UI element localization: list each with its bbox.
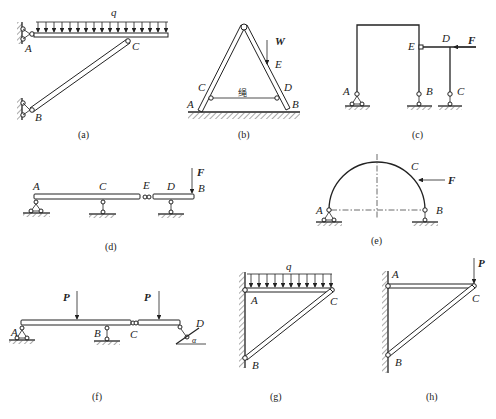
label-C: C — [198, 81, 206, 93]
caption-d: (d) — [105, 241, 117, 253]
label-F: F — [196, 166, 205, 178]
caption-c: (c) — [412, 129, 423, 141]
label-P1: P — [63, 291, 70, 303]
pin-B — [386, 353, 391, 358]
caption-f: (f) — [92, 391, 102, 403]
label-C: C — [330, 295, 338, 307]
label-D: D — [441, 32, 450, 44]
label-q: q — [286, 260, 292, 272]
label-A: A — [391, 268, 399, 280]
label-D: D — [283, 81, 292, 93]
label-B: B — [426, 85, 433, 97]
caption-e: (e) — [371, 235, 382, 247]
label-B: B — [198, 182, 205, 194]
label-A: A — [315, 204, 323, 216]
pin-C — [126, 39, 131, 44]
label-A: A — [250, 294, 258, 306]
label-F: F — [467, 34, 476, 46]
label-rope: 绳 — [238, 87, 247, 98]
label-W: W — [275, 35, 286, 47]
label-C: C — [130, 328, 138, 340]
label-P: P — [478, 257, 485, 269]
hinge-top — [241, 24, 247, 30]
panel-f: P P A B C D α (f) — [9, 291, 206, 403]
label-E: E — [274, 58, 282, 70]
label-E: E — [142, 179, 150, 191]
label-C: C — [132, 40, 140, 52]
bar-AC — [198, 25, 245, 112]
strut-BC — [30, 39, 130, 112]
caption-g: (g) — [270, 391, 282, 403]
label-C: C — [99, 180, 107, 192]
bar-AC — [388, 284, 474, 288]
label-P2: P — [144, 291, 151, 303]
pin-B — [30, 108, 35, 113]
panel-h: P A C B (h) — [382, 257, 485, 403]
panel-a: q A C B (a) — [17, 6, 168, 141]
panel-c: F D E A B C (c) — [342, 25, 476, 141]
label-A: A — [186, 98, 194, 110]
caption-a: (a) — [78, 129, 89, 141]
label-B: B — [395, 356, 402, 368]
beam-EB — [153, 194, 194, 199]
label-A: A — [342, 85, 350, 97]
label-q: q — [111, 6, 117, 18]
beam-AC — [245, 288, 332, 292]
beam-AC — [34, 33, 168, 37]
label-A: A — [32, 180, 40, 192]
label-A: A — [24, 42, 32, 54]
bar-BC — [387, 285, 475, 356]
label-D: D — [195, 317, 204, 329]
label-C: C — [457, 85, 465, 97]
frame-AEB — [357, 25, 419, 92]
panel-e: F C A B (e) — [315, 154, 456, 247]
panel-b: 绳 W E C D A B (b) — [186, 24, 300, 141]
label-D: D — [166, 180, 175, 192]
panel-g: q A C B (g) — [239, 260, 338, 403]
pin-A — [243, 288, 248, 293]
label-E: E — [407, 40, 415, 52]
beam-AC — [21, 320, 131, 325]
label-F: F — [447, 174, 456, 186]
label-B: B — [436, 204, 443, 216]
label-B: B — [35, 111, 42, 123]
panel-d: F B A C E D (d) — [23, 166, 205, 253]
beam-CD — [138, 320, 180, 325]
caption-b: (b) — [238, 129, 250, 141]
label-A: A — [10, 326, 18, 338]
caption-h: (h) — [426, 391, 438, 403]
pin-B — [243, 356, 248, 361]
beam-AE — [34, 194, 140, 199]
label-B: B — [292, 98, 299, 110]
label-B: B — [94, 327, 101, 339]
label-B: B — [252, 359, 259, 371]
pin-A — [386, 284, 391, 289]
distributed-load-arrows — [38, 22, 166, 32]
label-C: C — [411, 160, 419, 172]
distributed-load-arrows — [251, 274, 331, 287]
mechanics-figure: q A C B (a) 绳 W E C D A B (b) — [0, 0, 496, 419]
label-C: C — [472, 292, 480, 304]
